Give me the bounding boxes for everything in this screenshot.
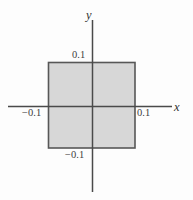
y-axis-label: y [86,9,92,22]
figure-canvas: y x 0.1 −0.1 −0.1 0.1 [0,0,193,200]
x-axis-label: x [174,101,180,114]
y-axis-tick-label-positive: 0.1 [72,50,85,61]
x-axis-tick-label-positive: 0.1 [137,108,150,119]
y-axis-tick-label-negative: −0.1 [65,150,84,161]
x-axis-tick-label-negative: −0.1 [22,108,41,119]
coordinate-plot [0,0,193,200]
